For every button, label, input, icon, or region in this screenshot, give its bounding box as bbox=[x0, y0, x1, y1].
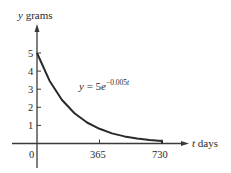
x-axis-arrow-icon bbox=[181, 141, 189, 146]
y-tick-label-5: 5 bbox=[28, 48, 33, 59]
decay-chart: 1 2 3 4 5 0 365 730 y grams t days y = 5… bbox=[0, 0, 231, 173]
x-axis-unit: days bbox=[195, 137, 218, 149]
y-axis-title: y grams bbox=[17, 9, 53, 21]
x-tick-label-730: 730 bbox=[152, 149, 168, 160]
x-tick-label-0: 0 bbox=[29, 149, 34, 160]
equation-label: y = 5e−0.005t bbox=[78, 78, 130, 92]
equation-mid: = 5 bbox=[84, 80, 102, 92]
y-tick-label-4: 4 bbox=[28, 66, 34, 77]
equation-exponent-var: t bbox=[127, 78, 130, 87]
y-tick-label-2: 2 bbox=[28, 102, 33, 113]
x-axis-title: t days bbox=[192, 137, 218, 149]
decay-curve bbox=[37, 53, 162, 144]
y-tick-label-1: 1 bbox=[28, 120, 33, 131]
y-tick-label-3: 3 bbox=[28, 84, 33, 95]
y-axis-arrow-icon bbox=[35, 24, 40, 32]
y-axis bbox=[35, 24, 40, 168]
y-axis-unit: grams bbox=[23, 9, 53, 21]
x-tick-label-365: 365 bbox=[90, 149, 106, 160]
equation-exponent: −0.005 bbox=[106, 78, 127, 87]
